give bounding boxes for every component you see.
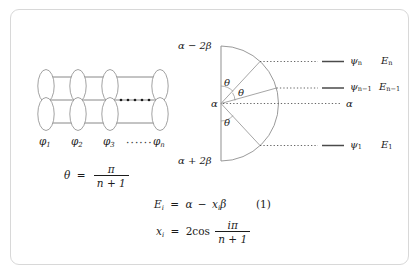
level-label-psi-n: ψn [350,56,362,67]
level-label-psi-1: ψ1 [350,140,362,151]
orbital-label-phi1: φ1 [39,136,51,148]
level-label-energy-n: En [381,56,393,67]
fraction-theta: π n + 1 [94,163,129,189]
angle-label-theta-middle: θ [238,88,244,98]
energy-bottom-edge-label: α + 2β [178,156,212,166]
level-label-psi-n-1: ψn−1 [350,82,372,93]
orbital-label-ellipsis: ······ [126,138,153,149]
orbital-chain-artwork [38,70,168,131]
level-label-alpha: α [346,99,353,109]
energy-top-edge-label: α − 2β [178,41,212,51]
angle-label-theta-upper: θ [224,78,230,88]
orbital-label-phi3: φ3 [103,136,115,148]
level-label-energy-n-1: En−1 [379,82,400,93]
energy-center-alpha-label: α [211,99,218,109]
equation-x: xi = 2cos iπ n + 1 [156,219,252,245]
figure-canvas: .orb { fill:#ffffff; stroke:#8a8a8a; str… [0,0,419,275]
angle-label-theta-lower: θ [224,118,230,128]
fraction-x: iπ n + 1 [215,219,250,245]
level-label-energy-1: E1 [381,140,393,151]
equation-number: (1) [256,198,271,210]
equation-theta: θ = π n + 1 [64,163,131,189]
orbital-label-phin: φn [153,136,165,148]
energy-diagram-artwork [221,46,344,161]
orbital-label-phi2: φ2 [71,136,83,148]
equation-energy: Ei = α − xiβ [154,198,226,212]
